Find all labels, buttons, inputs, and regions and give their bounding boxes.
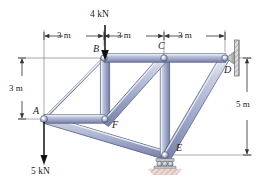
member-B-C [104,54,164,63]
node-label-A: A [33,106,39,116]
member-A-F [44,115,105,124]
top-dimension-lines [44,32,225,40]
truss-drawing-canvas [0,0,272,186]
member-B-F [100,58,109,119]
support-E-roller [148,159,182,176]
member-F-C [102,55,168,127]
dimension-label-right-height: 5 m [236,100,250,109]
dimension-label-top-span-1: 3 m [57,31,71,40]
member-A-B [40,56,107,122]
node-label-C: C [158,41,165,51]
member-E-D [161,55,229,162]
dimension-label-left-height: 3 m [9,84,23,93]
dimension-label-top-span-3: 3 m [178,31,192,40]
load-arrow-A [41,122,48,165]
node-label-D: D [224,65,231,75]
truss-members [40,54,229,162]
node-label-F: F [112,120,118,130]
member-C-E [160,58,169,155]
load-label-4kn: 4 kN [90,10,109,20]
dimension-label-top-span-2: 3 m [117,31,131,40]
load-label-5kn: 5 kN [31,167,50,177]
truss-diagram-figure: 3 m 3 m 3 m 3 m 5 m 4 kN 5 kN A B C D E … [0,0,272,186]
node-label-E: E [176,143,182,153]
node-label-B: B [93,44,99,54]
member-C-D [164,54,226,63]
